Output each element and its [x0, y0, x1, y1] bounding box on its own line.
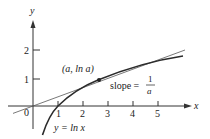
x-tick-label-4: 4	[130, 108, 135, 119]
y-tick-label-2: 2	[24, 45, 29, 56]
axes	[8, 20, 192, 129]
y-axis-label: y	[29, 5, 35, 16]
y-axis-arrow-icon	[31, 20, 36, 28]
origin-label: 0	[24, 107, 29, 118]
x-axis-arrow-icon	[184, 104, 192, 109]
x-tick-label-5: 5	[155, 108, 160, 119]
tangency-point	[97, 78, 101, 82]
ln-tangent-diagram: y x 0 1 2 3 4 5 1 2 (a, ln a) slope = 1 …	[0, 0, 210, 139]
y-tick-label-1: 1	[24, 74, 29, 85]
point-label: (a, ln a)	[62, 63, 95, 75]
y-ticks	[33, 50, 40, 79]
slope-label-prefix: slope =	[110, 80, 140, 91]
x-tick-label-1: 1	[56, 108, 61, 119]
x-tick-label-2: 2	[80, 108, 85, 119]
x-tick-label-3: 3	[105, 108, 110, 119]
slope-numerator: 1	[148, 74, 153, 84]
x-ticks	[58, 101, 158, 106]
slope-denominator: a	[147, 86, 152, 96]
x-axis-label: x	[193, 100, 199, 111]
curve-label: y = ln x	[53, 122, 85, 133]
